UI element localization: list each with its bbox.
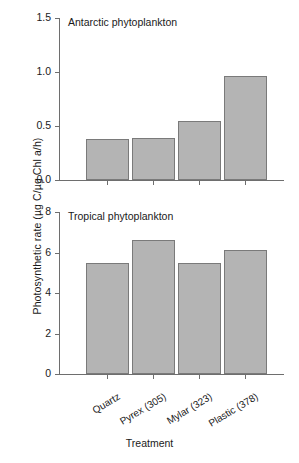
bar-tropical-quartz[interactable]	[86, 263, 129, 374]
plot-area-antarctic	[60, 18, 278, 180]
y-tick-label-top-1: 0.5	[36, 119, 51, 131]
y-tick-label-bottom-3: 6	[45, 246, 51, 258]
bar-tropical-pyrex[interactable]	[132, 240, 175, 374]
x-tick-top-3	[245, 181, 246, 185]
y-tick-label-bottom-2: 4	[45, 286, 51, 298]
y-tick-label-bottom-0: 0	[45, 367, 51, 379]
panel-tropical: Tropical phytoplankton 0 2 4 6 8	[0, 212, 299, 382]
y-tick-label-top-2: 1.0	[36, 65, 51, 77]
x-tick-top-0	[107, 181, 108, 185]
y-tick-label-bottom-1: 2	[45, 327, 51, 339]
x-tick-bottom-1	[153, 375, 154, 379]
x-tick-bottom-0	[107, 375, 108, 379]
x-tick-bottom-3	[245, 375, 246, 379]
bar-tropical-plastic[interactable]	[224, 250, 267, 374]
bar-antarctic-plastic[interactable]	[224, 76, 267, 180]
chart-figure: Photosynthetic rate (µg C/µg Chl a/h) An…	[0, 0, 299, 463]
x-axis-spine-bottom	[59, 374, 284, 375]
x-tick-top-1	[153, 181, 154, 185]
x-tick-top-2	[199, 181, 200, 185]
bar-antarctic-quartz[interactable]	[86, 139, 129, 180]
y-tick-label-bottom-4: 8	[45, 205, 51, 217]
plot-area-tropical	[60, 212, 278, 374]
y-tick-label-top-0: 0.0	[36, 173, 51, 185]
bar-antarctic-pyrex[interactable]	[132, 138, 175, 180]
y-tick-label-top-3: 1.5	[36, 11, 51, 23]
bar-tropical-mylar[interactable]	[178, 263, 221, 374]
x-axis-label: Treatment	[0, 437, 299, 449]
bar-antarctic-mylar[interactable]	[178, 121, 221, 180]
panel-antarctic: Antarctic phytoplankton 0.0 0.5 1.0 1.5	[0, 18, 299, 188]
x-axis-spine-top	[59, 180, 284, 181]
x-tick-bottom-2	[199, 375, 200, 379]
